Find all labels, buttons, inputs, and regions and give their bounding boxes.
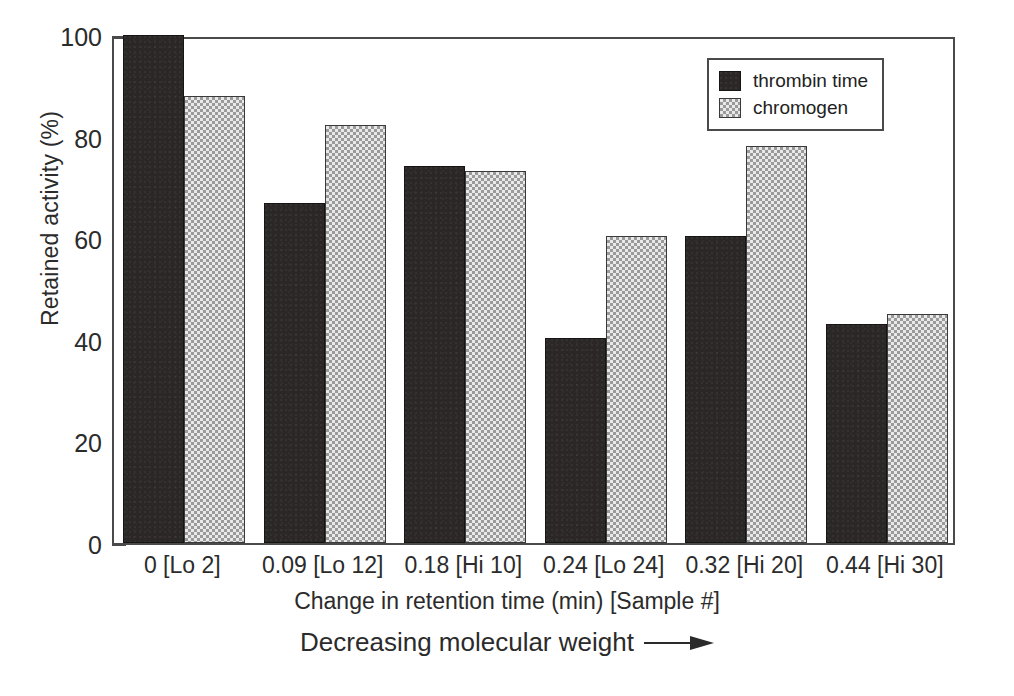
x-axis-tick-label: 0.32 [Hi 20] <box>685 552 803 579</box>
legend-item-thrombin-time: thrombin time <box>719 67 868 94</box>
bar-chromogen <box>606 236 667 543</box>
bar-thrombin-time <box>123 35 184 543</box>
bar-thrombin-time <box>404 166 465 543</box>
y-axis-tick-label: 60 <box>26 226 102 255</box>
legend-item-chromogen: chromogen <box>719 94 868 121</box>
bar-chromogen <box>465 171 526 543</box>
bar-chromogen <box>746 146 807 543</box>
y-axis-tick-label: 20 <box>26 429 102 458</box>
bar-thrombin-time <box>685 236 746 543</box>
legend-label-thrombin-time: thrombin time <box>753 70 868 92</box>
bar-thrombin-time <box>545 338 606 543</box>
bar-thrombin-time <box>264 203 325 543</box>
legend-label-chromogen: chromogen <box>753 97 848 119</box>
bar-chromogen <box>887 314 948 543</box>
chart-legend: thrombin time chromogen <box>707 58 884 131</box>
y-axis-tick-label: 40 <box>26 327 102 356</box>
x-axis-tick-label: 0.18 [Hi 10] <box>404 552 522 579</box>
y-axis-tick-label: 100 <box>26 23 102 52</box>
bar-thrombin-time <box>826 324 887 543</box>
bar-chromogen <box>184 96 245 543</box>
y-axis-tick-label: 80 <box>26 124 102 153</box>
x-axis-tick-label: 0.09 [Lo 12] <box>262 552 384 579</box>
y-axis-tick-label: 0 <box>26 531 102 560</box>
legend-swatch-icon-thrombin-time <box>719 71 741 91</box>
x-axis-tick-label: 0.24 [Lo 24] <box>543 552 665 579</box>
x-axis-title: Change in retention time (min) [Sample #… <box>0 588 1014 615</box>
legend-swatch-icon-chromogen <box>719 98 741 118</box>
bar-chromogen <box>325 125 386 543</box>
x-axis-tick-label: 0 [Lo 2] <box>144 552 221 579</box>
chart-annotation: Decreasing molecular weight <box>0 627 1014 658</box>
right-arrow-icon <box>644 635 714 651</box>
annotation-text: Decreasing molecular weight <box>300 627 634 658</box>
bar-chart-figure: Retained activity (%) 020406080100 0 [Lo… <box>0 0 1014 696</box>
x-axis-tick-label: 0.44 [Hi 30] <box>826 552 944 579</box>
